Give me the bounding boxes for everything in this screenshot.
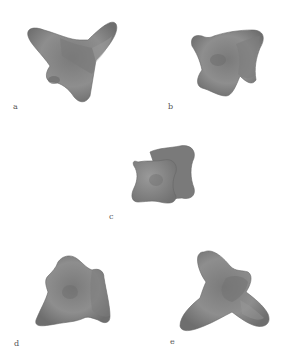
figure: a b c d e [0, 0, 287, 359]
panel-label-d: d [14, 339, 19, 348]
panel-label-e: e [170, 337, 175, 346]
shape-c [132, 146, 194, 203]
shape-b [191, 30, 263, 96]
shape-d [36, 256, 110, 326]
shapes-canvas [0, 0, 287, 359]
shape-e [180, 251, 269, 331]
shape-a [28, 22, 117, 102]
panel-label-a: a [13, 102, 18, 111]
panel-label-c: c [109, 212, 113, 221]
panel-label-b: b [168, 102, 173, 111]
